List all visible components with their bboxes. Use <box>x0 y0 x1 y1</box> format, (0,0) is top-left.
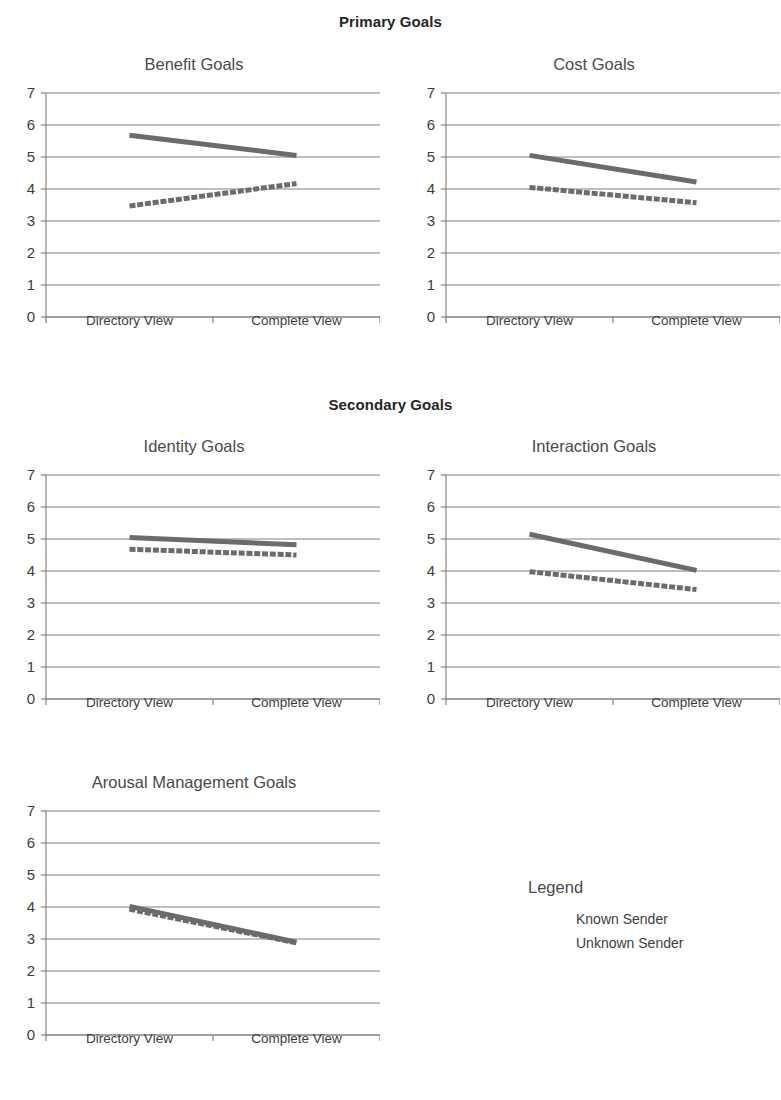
y-tick-label: 1 <box>427 658 435 675</box>
x-tick-label-complete-view: Complete View <box>213 313 380 328</box>
legend-item-known-sender: Known Sender <box>528 911 758 927</box>
y-tick-label: 2 <box>27 626 35 643</box>
y-tick-label: 1 <box>427 276 435 293</box>
y-tick-label: 5 <box>427 530 435 547</box>
y-tick-label: 2 <box>27 962 35 979</box>
y-tick-label: 0 <box>27 690 35 707</box>
section-header-secondary-goals: Secondary Goals <box>0 396 781 413</box>
legend-label-known-sender: Known Sender <box>576 911 668 927</box>
chart-title-arousal-management-goals: Arousal Management Goals <box>8 773 380 792</box>
chart-svg: 01234567 <box>8 85 380 343</box>
chart-svg: 01234567 <box>8 803 380 1061</box>
plot-area-arousal-management-goals: 01234567 <box>8 803 380 1061</box>
x-axis-labels-cost-goals: Directory View Complete View <box>446 313 780 328</box>
y-tick-label: 5 <box>427 148 435 165</box>
series-line-known-sender <box>530 155 697 182</box>
chart-panel-interaction-goals: Interaction Goals 01234567 Directory Vie… <box>408 437 780 737</box>
y-tick-label: 3 <box>427 212 435 229</box>
y-tick-label: 4 <box>427 180 435 197</box>
legend-label-unknown-sender: Unknown Sender <box>576 935 683 951</box>
y-tick-label: 2 <box>427 244 435 261</box>
x-tick-label-complete-view: Complete View <box>613 695 780 710</box>
x-axis-labels-interaction-goals: Directory View Complete View <box>446 695 780 710</box>
y-tick-label: 4 <box>27 898 35 915</box>
section-header-primary-goals: Primary Goals <box>0 13 781 30</box>
series-line-unknown-sender <box>530 572 697 590</box>
series-line-known-sender <box>130 135 297 155</box>
y-tick-label: 4 <box>427 562 435 579</box>
chart-svg: 01234567 <box>408 85 780 343</box>
x-tick-label-complete-view: Complete View <box>213 695 380 710</box>
y-tick-label: 3 <box>427 594 435 611</box>
y-tick-label: 1 <box>27 276 35 293</box>
chart-title-identity-goals: Identity Goals <box>8 437 380 456</box>
chart-svg: 01234567 <box>408 467 780 725</box>
plot-area-cost-goals: 01234567 <box>408 85 780 343</box>
x-tick-label-directory-view: Directory View <box>46 695 213 710</box>
x-tick-label-directory-view: Directory View <box>46 313 213 328</box>
series-line-known-sender <box>530 534 697 570</box>
y-tick-label: 6 <box>427 498 435 515</box>
chart-panel-benefit-goals: Benefit Goals 01234567 Directory View Co… <box>8 55 380 355</box>
chart-title-benefit-goals: Benefit Goals <box>8 55 380 74</box>
y-tick-label: 5 <box>27 530 35 547</box>
y-tick-label: 3 <box>27 930 35 947</box>
y-tick-label: 0 <box>427 690 435 707</box>
x-tick-label-directory-view: Directory View <box>46 1031 213 1046</box>
series-line-unknown-sender <box>130 549 297 555</box>
plot-area-benefit-goals: 01234567 <box>8 85 380 343</box>
chart-panel-arousal-management-goals: Arousal Management Goals 01234567 Direct… <box>8 773 380 1083</box>
y-tick-label: 1 <box>27 658 35 675</box>
x-tick-label-directory-view: Directory View <box>446 695 613 710</box>
y-tick-label: 3 <box>27 212 35 229</box>
y-tick-label: 5 <box>27 866 35 883</box>
y-tick-label: 2 <box>27 244 35 261</box>
y-tick-label: 4 <box>27 180 35 197</box>
chart-svg: 01234567 <box>8 467 380 725</box>
x-axis-labels-benefit-goals: Directory View Complete View <box>46 313 380 328</box>
y-tick-label: 7 <box>27 803 35 819</box>
y-tick-label: 5 <box>27 148 35 165</box>
x-tick-label-complete-view: Complete View <box>613 313 780 328</box>
x-axis-labels-identity-goals: Directory View Complete View <box>46 695 380 710</box>
x-tick-label-complete-view: Complete View <box>213 1031 380 1046</box>
legend-title: Legend <box>528 878 758 897</box>
legend-item-unknown-sender: Unknown Sender <box>528 935 758 951</box>
y-tick-label: 6 <box>27 834 35 851</box>
x-axis-labels-arousal-management-goals: Directory View Complete View <box>46 1031 380 1046</box>
y-tick-label: 4 <box>27 562 35 579</box>
y-tick-label: 6 <box>27 116 35 133</box>
y-tick-label: 7 <box>27 467 35 483</box>
chart-panel-identity-goals: Identity Goals 01234567 Directory View C… <box>8 437 380 737</box>
chart-title-interaction-goals: Interaction Goals <box>408 437 780 456</box>
y-tick-label: 6 <box>27 498 35 515</box>
plot-area-interaction-goals: 01234567 <box>408 467 780 725</box>
chart-panel-cost-goals: Cost Goals 01234567 Directory View Compl… <box>408 55 780 355</box>
y-tick-label: 0 <box>427 308 435 325</box>
series-line-unknown-sender <box>130 184 297 206</box>
y-tick-label: 7 <box>427 85 435 101</box>
x-tick-label-directory-view: Directory View <box>446 313 613 328</box>
y-tick-label: 7 <box>427 467 435 483</box>
y-tick-label: 0 <box>27 308 35 325</box>
legend: Legend Known Sender Unknown Sender <box>528 878 758 959</box>
y-tick-label: 0 <box>27 1026 35 1043</box>
series-line-unknown-sender <box>530 187 697 202</box>
y-tick-label: 7 <box>27 85 35 101</box>
y-tick-label: 1 <box>27 994 35 1011</box>
chart-title-cost-goals: Cost Goals <box>408 55 780 74</box>
y-tick-label: 6 <box>427 116 435 133</box>
plot-area-identity-goals: 01234567 <box>8 467 380 725</box>
y-tick-label: 3 <box>27 594 35 611</box>
y-tick-label: 2 <box>427 626 435 643</box>
